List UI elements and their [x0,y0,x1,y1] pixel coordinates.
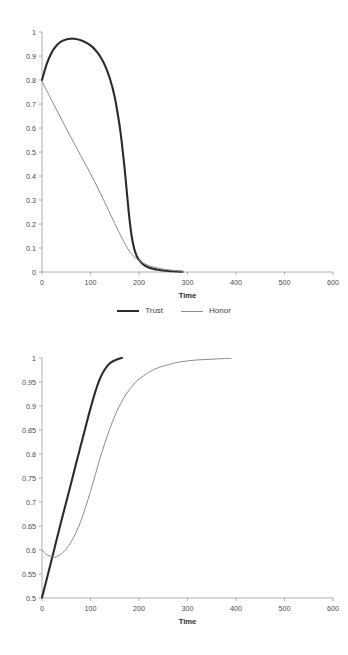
x-tick-label: 200 [133,278,145,287]
y-tick-label: 0.9 [26,52,36,61]
series-line-honor [42,358,231,557]
y-tick-label: 0.6 [26,546,36,555]
chart-page: 00.10.20.30.40.50.60.70.80.9101002003004… [0,0,348,655]
y-tick-label: 0.7 [26,498,36,507]
y-tick-label: 0.8 [26,450,36,459]
x-tick-label: 600 [327,278,339,287]
x-tick-label: 400 [230,604,242,613]
x-tick-label: 400 [230,278,242,287]
figure-bottom: 0.50.550.60.650.70.750.80.850.90.9510100… [0,330,348,655]
y-tick-label: 0.4 [26,172,36,181]
legend-swatch-honor-icon [181,311,203,312]
top-chart-legend: Trust Honor [0,307,348,315]
x-tick-label: 0 [40,278,44,287]
y-tick-label: 0.6 [26,124,36,133]
y-tick-label: 0.75 [22,474,36,483]
y-tick-label: 0.85 [22,426,36,435]
x-tick-label: 600 [327,604,339,613]
x-axis-title: Time [179,291,197,300]
x-tick-label: 200 [133,604,145,613]
y-tick-label: 0 [32,268,36,277]
legend-item-trust: Trust [117,307,163,315]
y-tick-label: 0.55 [22,570,36,579]
y-tick-label: 0.3 [26,196,36,205]
bottom-chart-plot: 0.50.550.60.650.70.750.80.850.90.9510100… [0,330,348,630]
top-chart-plot: 00.10.20.30.40.50.60.70.80.9101002003004… [0,0,348,300]
series-line-honor [42,81,183,271]
y-tick-label: 0.95 [22,378,36,387]
y-tick-label: 1 [32,28,36,37]
x-tick-label: 500 [279,278,291,287]
y-tick-label: 0.65 [22,522,36,531]
series-line-trust [42,358,122,598]
x-axis-title: Time [179,617,197,626]
y-tick-label: 0.7 [26,100,36,109]
legend-item-honor: Honor [181,307,231,315]
x-tick-label: 300 [182,604,194,613]
legend-label-trust: Trust [145,307,163,315]
legend-swatch-trust-icon [117,310,139,312]
x-tick-label: 300 [182,278,194,287]
y-tick-label: 0.1 [26,244,36,253]
x-tick-label: 100 [85,278,97,287]
y-tick-label: 0.5 [26,594,36,603]
figure-top: 00.10.20.30.40.50.60.70.80.9101002003004… [0,0,348,330]
y-tick-label: 0.2 [26,220,36,229]
x-tick-label: 0 [40,604,44,613]
y-tick-label: 1 [32,354,36,363]
y-tick-label: 0.5 [26,148,36,157]
y-tick-label: 0.8 [26,76,36,85]
x-tick-label: 500 [279,604,291,613]
y-tick-label: 0.9 [26,402,36,411]
series-line-trust [42,39,183,272]
legend-label-honor: Honor [209,307,231,315]
x-tick-label: 100 [85,604,97,613]
